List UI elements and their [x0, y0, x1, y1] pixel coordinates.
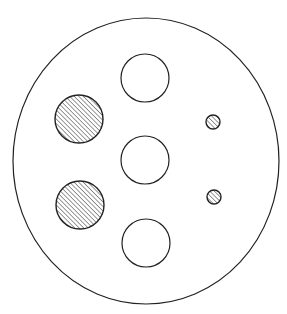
plate-diagram	[0, 0, 287, 314]
open-circles	[121, 54, 170, 267]
hatched-circles	[55, 95, 221, 229]
hatched-circle-upper-left	[55, 95, 103, 143]
outer-plate	[13, 18, 279, 304]
small-hatched-circle-upper-right	[206, 115, 220, 129]
open-circle-top	[121, 54, 169, 102]
open-circle-bottom	[122, 219, 170, 267]
small-hatched-circle-lower-right	[207, 190, 221, 204]
hatched-circle-lower-left	[56, 181, 104, 229]
open-circle-middle	[121, 136, 169, 184]
